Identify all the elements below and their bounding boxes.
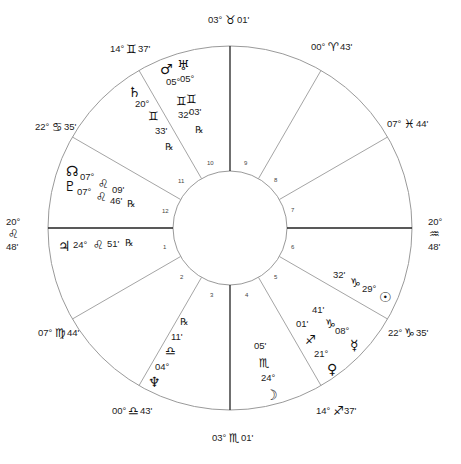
house-number-6: 6	[291, 244, 295, 250]
capricorn-icon: ♑	[350, 276, 361, 290]
house-number-1: 1	[163, 244, 167, 250]
svg-text:08°: 08°	[335, 325, 350, 336]
sagittarius-icon: ♐	[333, 404, 344, 418]
planet-moon: 05' ♏ 24° ☽	[254, 340, 278, 403]
svg-text:07°: 07°	[38, 327, 53, 338]
gemini-icon: ♊	[148, 109, 159, 123]
neptune-icon: ♆	[148, 374, 161, 390]
gemini-icon: ♊	[186, 92, 197, 106]
svg-text:51': 51'	[107, 238, 120, 249]
planet-neptune: ℞ 11' ♎ 04° ♆	[148, 316, 189, 390]
retrograde-marker: ℞	[165, 141, 174, 152]
house-number-8: 8	[274, 177, 278, 183]
house-number-3: 3	[210, 292, 214, 298]
svg-text:24°: 24°	[73, 239, 88, 250]
svg-text:48': 48'	[6, 241, 19, 252]
leo-icon: ♌	[98, 177, 109, 191]
uranus-icon: ♅	[177, 57, 190, 73]
svg-text:05°: 05°	[166, 76, 181, 87]
svg-text:07°: 07°	[77, 186, 92, 197]
svg-text:24°: 24°	[261, 372, 276, 383]
cusp-label-ic: 03° ♏ 01'	[212, 431, 254, 445]
cusp-line-2	[72, 257, 180, 320]
svg-text:20°: 20°	[428, 216, 443, 227]
svg-text:20°: 20°	[6, 216, 21, 227]
cusp-line-8	[279, 137, 387, 200]
planet-sun: 32' ♑ 29° ☉	[333, 269, 392, 305]
taurus-icon: ♉	[225, 13, 236, 27]
leo-icon: ♌	[8, 227, 19, 241]
svg-text:43': 43'	[140, 405, 153, 416]
svg-text:20°: 20°	[135, 98, 150, 109]
planet-mercury: 41' ♑ 08° ☿	[312, 304, 359, 353]
svg-text:37': 37'	[138, 43, 151, 54]
house-number-7: 7	[291, 207, 295, 213]
pisces-icon: ♓	[404, 117, 415, 131]
pluto-icon: ♇	[64, 178, 77, 194]
house-number-11: 11	[178, 178, 185, 184]
natal-chart-wheel: 1 2 3 4 5 6 7 8 9 10 11 12 03° ♉ 01' 00°…	[0, 0, 461, 464]
house-number-4: 4	[245, 292, 249, 298]
svg-text:01': 01'	[237, 14, 250, 25]
cusp-line-9	[259, 70, 322, 178]
libra-icon: ♎	[165, 344, 176, 358]
inner-ring	[173, 171, 287, 285]
svg-text:35': 35'	[416, 327, 429, 338]
mercury-icon: ☿	[350, 337, 359, 353]
cusp-label-mc: 03° ♉ 01'	[208, 13, 250, 27]
svg-text:03°: 03°	[208, 14, 223, 25]
venus-icon: ♀	[327, 361, 337, 377]
svg-text:00°: 00°	[311, 41, 326, 52]
house-number-10: 10	[207, 160, 214, 166]
svg-text:37': 37'	[344, 405, 357, 416]
cusp-label-3: 00° ♎ 43'	[112, 404, 153, 418]
retrograde-marker: ℞	[195, 124, 204, 135]
svg-text:04°: 04°	[155, 361, 170, 372]
svg-text:11': 11'	[171, 331, 183, 342]
cancer-icon: ♋	[52, 120, 63, 134]
svg-text:14°: 14°	[110, 43, 125, 54]
cusp-label-8: 07° ♓ 44'	[387, 117, 429, 131]
cusp-label-9: 00° ♈ 43'	[311, 40, 353, 54]
svg-text:05°: 05°	[180, 73, 195, 84]
sun-icon: ☉	[379, 289, 392, 305]
house-number-12: 12	[162, 208, 169, 214]
svg-text:44': 44'	[67, 327, 80, 338]
capricorn-icon: ♑	[404, 326, 415, 340]
svg-text:41': 41'	[312, 304, 325, 315]
mars-icon: ♂	[160, 61, 173, 77]
svg-text:22°: 22°	[388, 327, 403, 338]
cusp-label-dsc: 20° ♒ 48'	[428, 216, 443, 252]
gemini-icon: ♊	[126, 42, 137, 56]
house-number-9: 9	[244, 160, 248, 166]
cusp-label-2: 07° ♍ 44'	[38, 326, 80, 340]
cusp-label-6: 22° ♑ 35'	[388, 326, 429, 340]
svg-text:01': 01'	[241, 432, 254, 443]
svg-text:14°: 14°	[316, 405, 331, 416]
svg-text:03°: 03°	[212, 432, 227, 443]
jupiter-icon: ♃	[58, 238, 71, 254]
cusp-label-11: 14° ♊ 37'	[110, 42, 151, 56]
svg-text:29°: 29°	[362, 283, 377, 294]
retrograde-marker: ℞	[125, 237, 134, 248]
svg-text:07°: 07°	[80, 171, 95, 182]
svg-text:33': 33'	[155, 125, 168, 136]
scorpio-icon: ♏	[229, 431, 240, 445]
svg-text:03': 03'	[189, 106, 202, 117]
svg-text:09': 09'	[112, 184, 125, 195]
svg-text:46': 46'	[110, 195, 123, 206]
retrograde-marker: ℞	[127, 198, 136, 209]
svg-text:07°: 07°	[387, 118, 402, 129]
svg-text:21°: 21°	[314, 348, 329, 359]
planet-jupiter: ♃ 24° ♌ 51' ℞	[58, 237, 134, 254]
svg-text:05': 05'	[254, 340, 267, 351]
aries-icon: ♈	[328, 40, 339, 54]
cusp-label-asc: 20° ♌ 48'	[6, 216, 21, 252]
sagittarius-icon: ♐	[305, 333, 316, 347]
svg-text:22°: 22°	[35, 121, 50, 132]
svg-text:32': 32'	[333, 269, 346, 280]
house-number-5: 5	[274, 274, 278, 280]
retrograde-marker: ℞	[180, 316, 189, 327]
svg-text:00°: 00°	[112, 405, 127, 416]
scorpio-icon: ♏	[259, 356, 270, 370]
